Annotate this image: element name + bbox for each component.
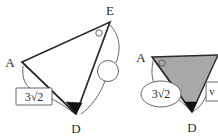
vertex-label-E-left: E	[106, 3, 114, 18]
edge-label-text-right: v	[209, 85, 215, 97]
vertex-label-D-left: D	[71, 121, 80, 136]
geometry-figure-svg: 3√2 A D E 3√2	[0, 0, 218, 137]
length-label-text-left: 3√2	[25, 90, 44, 104]
diagram-canvas: 3√2 A D E 3√2	[0, 0, 218, 137]
vertex-label-D-right: D	[187, 120, 196, 135]
empty-callout-bubble	[98, 61, 119, 82]
vertex-label-A-right: A	[136, 50, 146, 65]
length-label-text-right: 3√2	[152, 87, 171, 101]
vertex-label-A-left: A	[5, 55, 15, 70]
